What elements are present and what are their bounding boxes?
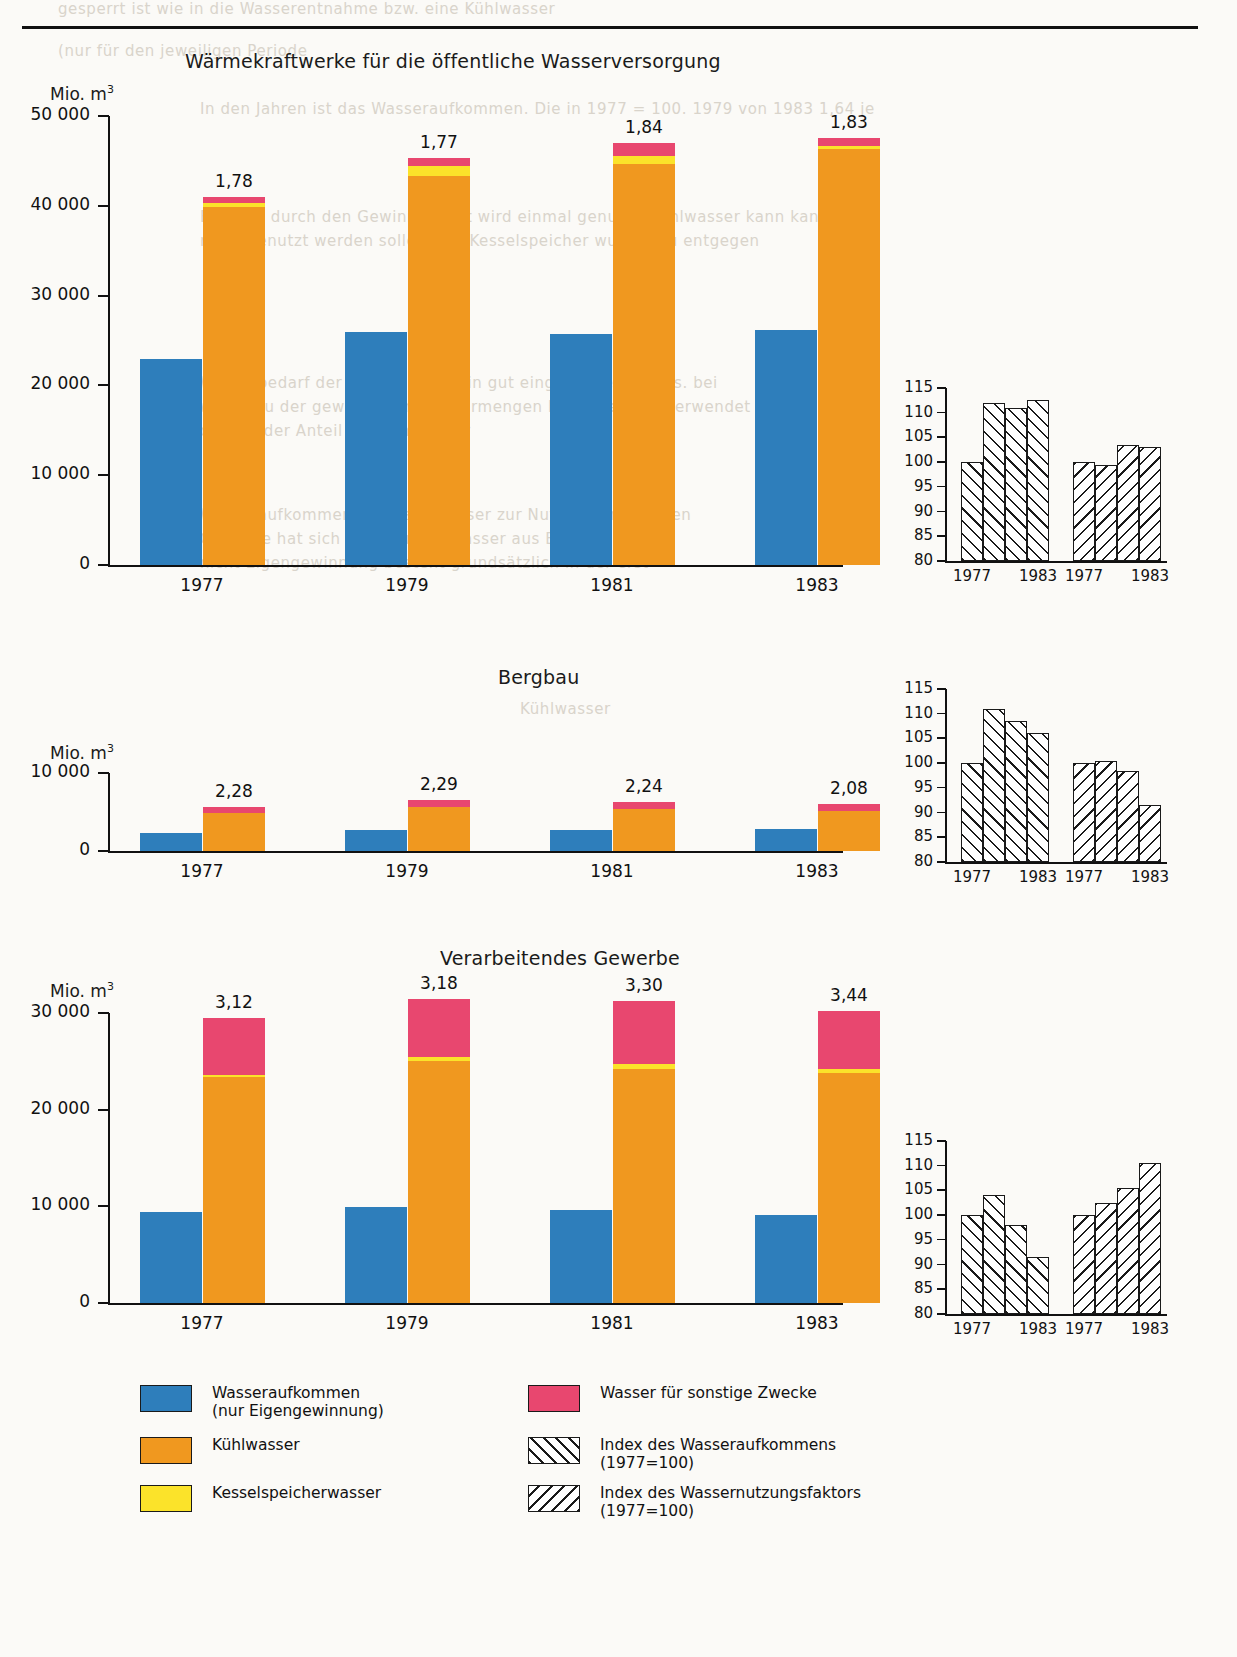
index-x-tick-label: 1983 (1121, 868, 1179, 886)
bar-stacked-nutzung (613, 802, 675, 851)
y-axis-unit: Mio. m3 (50, 980, 114, 1001)
ghost-text: Kühlwasser (520, 700, 611, 718)
index-y-tick-label: 80 (889, 1304, 933, 1322)
segment-sonstige-zwecke (613, 802, 675, 809)
bar-stacked-nutzung (818, 138, 880, 565)
bar-value-label: 1,78 (163, 171, 305, 191)
bar-stacked-nutzung (203, 197, 265, 565)
bar-value-label: 1,84 (573, 117, 715, 137)
x-tick-label: 1979 (315, 1313, 499, 1333)
bar-value-label: 2,24 (573, 776, 715, 796)
segment-sonstige-zwecke (203, 1018, 265, 1075)
index-y-tick-label: 100 (889, 1205, 933, 1223)
index-x-tick-label: 1977 (943, 567, 1001, 585)
index-y-tick-label: 90 (889, 502, 933, 520)
bar-value-label: 3,30 (573, 975, 715, 995)
bar-stacked-nutzung (613, 143, 675, 565)
index-bar (1139, 447, 1161, 561)
segment-kuehlwasser (408, 1061, 470, 1303)
segment-kesselspeicherwasser (408, 166, 470, 176)
segment-sonstige-zwecke (613, 1001, 675, 1064)
bar-value-label: 2,28 (163, 781, 305, 801)
index-bar (1139, 805, 1161, 862)
segment-kuehlwasser (203, 1077, 265, 1303)
x-tick-label: 1979 (315, 861, 499, 881)
y-tick (98, 1205, 109, 1207)
y-axis (108, 1013, 110, 1304)
index-x-tick-label: 1977 (1055, 1320, 1113, 1338)
index-y-tick (937, 511, 946, 513)
index-y-tick (937, 836, 946, 838)
legend-label: Index des Wassernutzungsfaktors (1977=10… (600, 1484, 861, 1520)
y-tick-label: 0 (0, 553, 90, 573)
bar-stacked-nutzung (613, 1001, 675, 1303)
ghost-text: mehr benutzt werden sollen. Die Kesselsp… (200, 232, 760, 250)
segment-sonstige-zwecke (818, 1011, 880, 1069)
legend-label: Wasseraufkommen (nur Eigengewinnung) (212, 1384, 384, 1420)
legend-swatch-blue (140, 1385, 192, 1412)
index-y-tick-label: 100 (889, 753, 933, 771)
y-tick-label: 40 000 (0, 194, 90, 214)
x-axis (108, 851, 843, 853)
y-tick (98, 1012, 109, 1014)
index-bar (1005, 408, 1027, 561)
index-y-tick (937, 1165, 946, 1167)
index-bar (961, 763, 983, 862)
bar-value-label: 2,29 (368, 774, 510, 794)
y-axis-unit-exponent: 3 (107, 742, 114, 755)
legend-swatch-hatch-a (528, 1437, 580, 1464)
index-bar (983, 1195, 1005, 1314)
ghost-text: gesperrt ist wie in die Wasserentnahme b… (58, 0, 555, 18)
index-bar (1073, 1215, 1095, 1314)
y-tick-label: 30 000 (0, 284, 90, 304)
bar-stacked-nutzung (818, 804, 880, 851)
index-y-tick (937, 1313, 946, 1315)
index-x-axis (945, 561, 1167, 563)
legend-label: Kesselspeicherwasser (212, 1484, 381, 1502)
x-tick-label: 1981 (520, 861, 704, 881)
x-tick-label: 1979 (315, 575, 499, 595)
y-tick-label: 10 000 (0, 463, 90, 483)
segment-kuehlwasser (613, 164, 675, 565)
y-tick-label: 20 000 (0, 373, 90, 393)
legend-swatch-hatch-b (528, 1485, 580, 1512)
index-y-tick-label: 95 (889, 778, 933, 796)
bar-value-label: 1,77 (368, 132, 510, 152)
index-bar (961, 462, 983, 561)
bar-wasseraufkommen (140, 833, 202, 851)
bar-wasseraufkommen (345, 830, 407, 851)
legend-swatch-yellow (140, 1485, 192, 1512)
bar-value-label: 3,18 (368, 973, 510, 993)
index-bar (1117, 445, 1139, 561)
index-bar (1027, 400, 1049, 561)
index-bar (1095, 1203, 1117, 1314)
y-axis-unit-exponent: 3 (107, 83, 114, 96)
x-tick-label: 1983 (725, 1313, 909, 1333)
bar-stacked-nutzung (408, 158, 470, 565)
bar-wasseraufkommen (345, 332, 407, 565)
segment-kuehlwasser (818, 811, 880, 851)
segment-sonstige-zwecke (818, 804, 880, 811)
segment-sonstige-zwecke (408, 800, 470, 807)
index-bar (1095, 465, 1117, 561)
y-tick-label: 10 000 (0, 1194, 90, 1214)
index-y-tick-label: 110 (889, 1156, 933, 1174)
index-y-tick-label: 80 (889, 551, 933, 569)
index-x-tick-label: 1977 (1055, 567, 1113, 585)
bar-wasseraufkommen (550, 830, 612, 851)
index-y-tick-label: 110 (889, 704, 933, 722)
segment-sonstige-zwecke (408, 158, 470, 166)
bar-wasseraufkommen (550, 1210, 612, 1303)
index-y-tick (937, 461, 946, 463)
bar-wasseraufkommen (550, 334, 612, 565)
bar-stacked-nutzung (203, 1018, 265, 1303)
index-y-tick-label: 85 (889, 526, 933, 544)
x-tick-label: 1981 (520, 575, 704, 595)
index-y-tick-label: 100 (889, 452, 933, 470)
segment-kuehlwasser (408, 807, 470, 851)
index-bar (983, 709, 1005, 862)
x-tick-label: 1977 (110, 575, 294, 595)
y-tick (98, 1302, 109, 1304)
segment-kuehlwasser (203, 813, 265, 851)
segment-kesselspeicherwasser (613, 156, 675, 164)
